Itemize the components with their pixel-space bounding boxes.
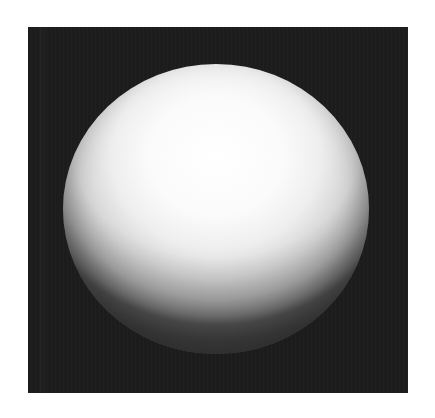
photograph: Photograph of a white matte sphere lit f…	[28, 27, 408, 393]
white-sphere	[63, 64, 369, 354]
page: Photograph of a white matte sphere lit f…	[0, 0, 435, 418]
